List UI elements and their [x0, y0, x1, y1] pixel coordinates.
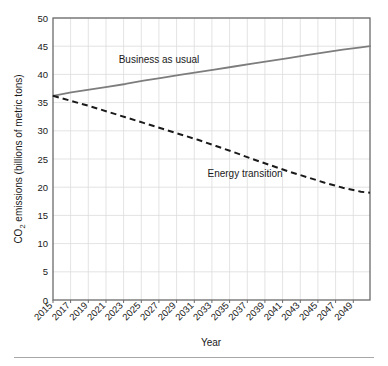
- x-tick-label: 2041: [261, 300, 284, 323]
- x-tick-label: 2027: [138, 300, 161, 323]
- x-tick-label: 2031: [173, 300, 196, 323]
- y-axis-title-prefix: CO: [13, 228, 24, 243]
- y-axis-title-suffix: emissions (billions of metric tons): [13, 74, 24, 224]
- y-tick-label: 35: [37, 97, 48, 108]
- y-axis-title-group: CO2 emissions (billions of metric tons): [13, 74, 27, 243]
- co2-emissions-line-chart: 50 45 40 35 30 25 20 15 10 5 0: [0, 0, 388, 366]
- y-tick-label: 15: [37, 210, 48, 221]
- x-tick-label: 2047: [314, 300, 337, 323]
- x-tick-label: 2033: [191, 300, 214, 323]
- x-tick-label: 2029: [155, 300, 178, 323]
- annotation-energy-transition: Energy transition: [207, 168, 282, 179]
- y-axis-title: CO2 emissions (billions of metric tons): [13, 74, 27, 243]
- x-tick-label: 2045: [297, 300, 320, 323]
- y-tick-label: 50: [37, 13, 48, 24]
- x-tick-label: 2037: [226, 300, 249, 323]
- x-axis-title: Year: [201, 337, 222, 348]
- y-tick-label: 25: [37, 154, 48, 165]
- x-axis-ticks: 2015 2017 2019 2021 2023 2025 2027 2029 …: [32, 300, 355, 323]
- x-tick-label: 2025: [120, 300, 143, 323]
- x-tick-label: 2049: [332, 300, 355, 323]
- y-tick-label: 30: [37, 125, 48, 136]
- y-axis-ticks: 50 45 40 35 30 25 20 15 10 5 0: [37, 13, 48, 306]
- y-tick-label: 45: [37, 41, 48, 52]
- annotation-business-as-usual: Business as usual: [119, 54, 200, 65]
- x-tick-label: 2035: [208, 300, 231, 323]
- y-tick-label: 20: [37, 182, 48, 193]
- x-tick-label: 2039: [244, 300, 267, 323]
- x-tick-label: 2021: [85, 300, 108, 323]
- x-tick-label: 2043: [279, 300, 302, 323]
- y-tick-label: 10: [37, 238, 48, 249]
- y-tick-label: 5: [43, 266, 48, 277]
- x-tick-label: 2019: [67, 300, 90, 323]
- y-tick-label: 40: [37, 69, 48, 80]
- x-tick-label: 2023: [102, 300, 125, 323]
- chart-figure: 50 45 40 35 30 25 20 15 10 5 0: [0, 0, 388, 366]
- x-tick-label: 2015: [32, 300, 55, 323]
- x-tick-label: 2017: [49, 300, 72, 323]
